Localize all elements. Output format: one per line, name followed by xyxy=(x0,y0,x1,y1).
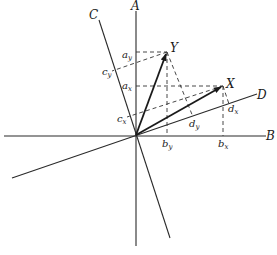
label-c-y: cy xyxy=(102,66,113,79)
proj-y-to-c xyxy=(112,52,167,71)
label-a-y: ay xyxy=(122,49,133,62)
label-c-x: cx xyxy=(117,113,127,126)
axis-label-a: A xyxy=(130,0,140,13)
vector-projection-diagram: A B C D Y X ay ax cy cx by bx dy dx xyxy=(0,0,277,255)
vector-label-y: Y xyxy=(170,41,179,55)
label-d-y: dy xyxy=(189,118,200,131)
axis-label-b: B xyxy=(265,129,275,143)
label-b-y: by xyxy=(162,138,173,151)
axis-label-c: C xyxy=(89,8,98,22)
axis-c xyxy=(99,20,170,238)
label-d-x: dx xyxy=(228,103,238,116)
axis-label-d: D xyxy=(256,88,267,102)
vector-y xyxy=(136,54,166,135)
proj-y-to-d xyxy=(167,52,193,117)
label-b-x: bx xyxy=(218,138,228,151)
vector-label-x: X xyxy=(225,77,235,91)
label-a-x: ax xyxy=(122,80,132,93)
